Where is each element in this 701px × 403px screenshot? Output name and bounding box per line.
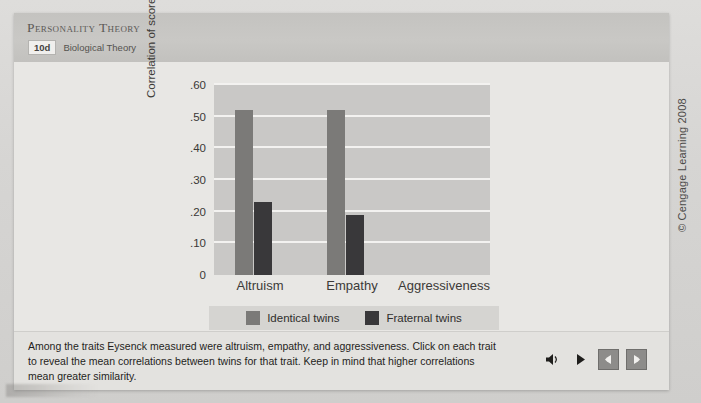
application-window: Personality Theory 10d Biological Theory… bbox=[14, 13, 669, 390]
playback-controls bbox=[542, 349, 647, 370]
bar-empathy-identical[interactable] bbox=[327, 110, 345, 275]
audio-button[interactable] bbox=[542, 349, 563, 370]
next-button[interactable] bbox=[626, 349, 647, 370]
y-tick-label: 0 bbox=[200, 269, 206, 281]
caption-bar: Among the traits Eysenck measured were a… bbox=[14, 331, 669, 390]
gridline bbox=[214, 115, 490, 117]
x-axis-label-altruism[interactable]: Altruism bbox=[237, 278, 284, 293]
chapter-name-label: Biological Theory bbox=[63, 42, 136, 53]
next-icon bbox=[630, 353, 643, 366]
copyright-notice: © Cengage Learning 2008 bbox=[676, 98, 688, 232]
bar-altruism-identical[interactable] bbox=[235, 110, 253, 275]
bar-empathy-fraternal[interactable] bbox=[346, 215, 364, 275]
previous-button[interactable] bbox=[598, 349, 619, 370]
gridline bbox=[214, 178, 490, 180]
caption-text: Among the traits Eysenck measured were a… bbox=[28, 339, 498, 384]
y-tick-label: .60 bbox=[190, 79, 206, 91]
previous-icon bbox=[602, 353, 615, 366]
screenshot-root: Personality Theory 10d Biological Theory… bbox=[0, 0, 701, 403]
y-axis-ticks: 0.10.20.30.40.50.60 bbox=[174, 83, 206, 297]
gridline bbox=[214, 83, 490, 85]
plot-area bbox=[214, 85, 490, 275]
legend-swatch bbox=[365, 311, 379, 325]
legend-label: Fraternal twins bbox=[386, 312, 461, 324]
legend-item: Identical twins bbox=[246, 311, 339, 325]
chart-legend: Identical twinsFraternal twins bbox=[209, 306, 499, 330]
app-header: Personality Theory 10d Biological Theory bbox=[14, 13, 669, 62]
x-axis-labels: AltruismEmpathyAggressiveness bbox=[214, 278, 490, 300]
gridline bbox=[214, 146, 490, 148]
legend-swatch bbox=[246, 311, 260, 325]
y-tick-label: .20 bbox=[190, 206, 206, 218]
y-tick-label: .10 bbox=[190, 237, 206, 249]
y-tick-label: .40 bbox=[190, 142, 206, 154]
x-axis-label-empathy[interactable]: Empathy bbox=[326, 278, 377, 293]
chapter-number-badge: 10d bbox=[28, 40, 56, 55]
audio-icon bbox=[545, 353, 560, 366]
legend-label: Identical twins bbox=[267, 312, 339, 324]
y-axis-title: Correlation of scores bbox=[145, 0, 157, 120]
y-tick-label: .50 bbox=[190, 111, 206, 123]
content-stage: Correlation of scores 0.10.20.30.40.50.6… bbox=[14, 62, 669, 331]
play-button[interactable] bbox=[570, 349, 591, 370]
play-icon bbox=[574, 353, 587, 366]
y-tick-label: .30 bbox=[190, 174, 206, 186]
legend-item: Fraternal twins bbox=[365, 311, 461, 325]
bar-chart: Correlation of scores 0.10.20.30.40.50.6… bbox=[14, 62, 669, 331]
image-artifact bbox=[6, 384, 98, 397]
page-title: Personality Theory bbox=[27, 20, 140, 36]
x-axis-label-aggressiveness[interactable]: Aggressiveness bbox=[398, 278, 490, 293]
breadcrumb: 10d Biological Theory bbox=[28, 40, 136, 55]
bar-altruism-fraternal[interactable] bbox=[254, 202, 272, 275]
